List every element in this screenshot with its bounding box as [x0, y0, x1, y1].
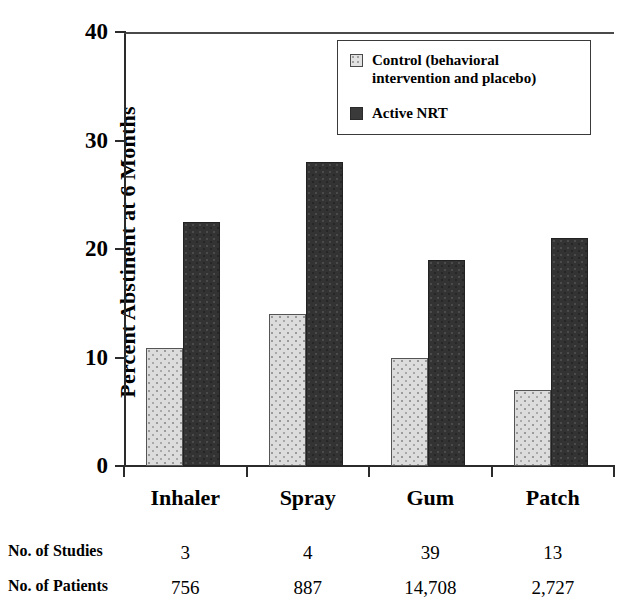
x-axis-tick	[613, 465, 615, 477]
bar-inhaler-control	[146, 348, 183, 466]
x-axis-tick	[246, 465, 248, 477]
table-cell-patients-inhaler: 756	[125, 578, 245, 597]
table-cell-studies-inhaler: 3	[125, 543, 245, 562]
table-cell-studies-patch: 13	[493, 543, 613, 562]
bar-patch-active-nrt	[551, 238, 588, 466]
legend-item-control: Control (behavioral intervention and pla…	[350, 51, 580, 88]
x-axis-tick	[123, 465, 125, 477]
bar-gum-control	[391, 358, 428, 467]
table-cell-patients-gum: 14,708	[370, 578, 490, 597]
y-axis-tick-label: 40	[40, 20, 108, 43]
legend: Control (behavioral intervention and pla…	[337, 40, 591, 135]
table-cell-patients-patch: 2,727	[493, 578, 613, 597]
category-label-spray: Spray	[238, 487, 378, 509]
bar-spray-control	[269, 314, 306, 466]
legend-item-active-nrt: Active NRT	[350, 104, 580, 122]
legend-swatch-nrt-icon	[350, 107, 363, 120]
x-axis-tick	[368, 465, 370, 477]
category-label-inhaler: Inhaler	[115, 487, 255, 509]
table-cell-patients-spray: 887	[248, 578, 368, 597]
legend-label: Control (behavioral intervention and pla…	[372, 51, 580, 88]
legend-swatch-control-icon	[350, 54, 363, 67]
category-label-gum: Gum	[360, 487, 500, 509]
x-axis-tick	[491, 465, 493, 477]
bar-spray-active-nrt	[306, 162, 343, 466]
bar-gum-active-nrt	[428, 260, 465, 466]
bar-patch-control	[514, 390, 551, 466]
table-cell-studies-spray: 4	[248, 543, 368, 562]
y-axis-tick-label: 30	[40, 129, 108, 152]
legend-label: Active NRT	[372, 104, 448, 122]
bar-inhaler-active-nrt	[183, 222, 220, 466]
y-axis-tick-label: 0	[40, 454, 108, 477]
bar-chart: Percent Abstinent at 6 Months 403020100 …	[0, 0, 625, 607]
y-axis-tick-label: 10	[40, 346, 108, 369]
category-label-patch: Patch	[483, 487, 623, 509]
y-axis-tick-label: 20	[40, 237, 108, 260]
table-cell-studies-gum: 39	[370, 543, 490, 562]
